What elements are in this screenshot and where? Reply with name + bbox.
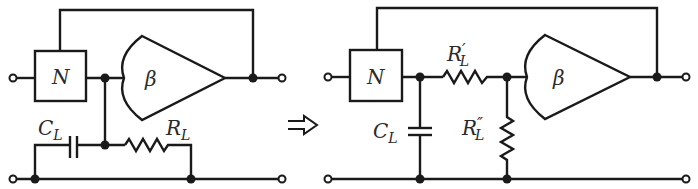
network-n-label: N [366,65,386,89]
ground-junction-dot [187,175,196,184]
output-terminal [279,75,286,82]
rl-double-prime-label: R″L [461,114,484,143]
ground-terminal [279,176,286,183]
resistor-rl-double-prime [501,77,513,179]
ground-junction-dot [31,175,40,184]
beta-label: β [144,67,157,91]
junction-dot [503,73,512,82]
junction-dot [416,73,425,82]
cap-left-wire [35,145,70,179]
rc-junction-dot [101,141,110,150]
circuit-figure: N β CL RL [0,0,698,189]
output-terminal [683,74,690,81]
ground-junction-dot [503,175,512,184]
left-circuit: N β CL RL [10,10,286,184]
right-circuit: N R′L β CL R″L [325,8,690,184]
cl-label: CL [373,119,398,146]
rl-prime-label: R′L [446,40,469,69]
feedback-wire [377,8,657,77]
double-arrow-right-icon [288,116,317,134]
resistor-rl-prime [443,71,527,83]
input-terminal [325,74,332,81]
input-terminal [10,75,17,82]
resistor-rl [125,139,191,179]
ground-terminal [683,176,690,183]
output-junction-dot [653,73,662,82]
output-junction-dot [249,74,258,83]
beta-amplifier [525,35,630,119]
junction-dot [101,74,110,83]
beta-amplifier [122,36,225,120]
rl-label: RL [165,116,190,143]
beta-label: β [552,66,565,90]
ground-terminal [325,176,332,183]
network-n-label: N [51,65,71,89]
cl-label: CL [38,116,63,143]
ground-junction-dot [416,175,425,184]
ground-terminal [10,176,17,183]
